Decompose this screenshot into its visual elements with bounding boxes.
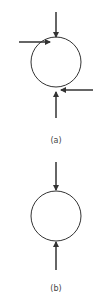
diagram-b: (b)	[31, 162, 81, 293]
circle-a	[31, 37, 81, 87]
circle-b	[31, 191, 81, 241]
force-diagrams: (a) (b)	[0, 0, 102, 300]
diagram-a: (a)	[19, 12, 93, 145]
label-b: (b)	[50, 284, 61, 293]
label-a: (a)	[50, 136, 61, 145]
